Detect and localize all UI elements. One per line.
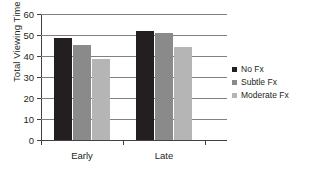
x-axis-line xyxy=(41,140,227,141)
bar-chart: Total Viewing Time (sec) 0102030405060 N… xyxy=(0,0,309,175)
x-axis-label-late: Late xyxy=(155,150,174,161)
y-axis-tick xyxy=(37,35,41,36)
legend-swatch-icon xyxy=(232,67,237,72)
bar-early-subtle-fx xyxy=(73,45,91,140)
gridline xyxy=(41,14,227,15)
y-axis-tick-label: 40 xyxy=(23,51,34,62)
y-axis-tick xyxy=(37,14,41,15)
x-axis-tick xyxy=(205,140,206,145)
bar-early-moderate-fx xyxy=(92,59,110,140)
bar-late-moderate-fx xyxy=(174,47,192,140)
y-axis-tick-label: 10 xyxy=(23,114,34,125)
legend: No FxSubtle FxModerate Fx xyxy=(232,63,289,102)
y-axis-tick xyxy=(37,77,41,78)
y-axis-tick-label: 50 xyxy=(23,30,34,41)
y-axis-tick-label: 60 xyxy=(23,9,34,20)
y-axis-tick xyxy=(37,56,41,57)
x-axis-tick xyxy=(123,140,124,145)
y-axis-tick xyxy=(37,98,41,99)
y-axis-tick xyxy=(37,119,41,120)
legend-item-no-fx: No Fx xyxy=(232,63,289,76)
legend-swatch-icon xyxy=(232,80,237,85)
legend-label: Moderate Fx xyxy=(241,89,289,102)
y-axis-tick-label: 0 xyxy=(29,135,34,146)
x-axis-label-early: Early xyxy=(71,150,93,161)
bar-late-subtle-fx xyxy=(155,33,173,140)
gridline xyxy=(41,35,227,36)
bar-late-no-fx xyxy=(136,31,154,140)
legend-label: Subtle Fx xyxy=(241,76,277,89)
legend-label: No Fx xyxy=(241,63,264,76)
legend-item-subtle-fx: Subtle Fx xyxy=(232,76,289,89)
y-axis-title: Total Viewing Time (sec) xyxy=(11,0,22,94)
plot-area: 0102030405060 xyxy=(41,14,205,140)
bar-early-no-fx xyxy=(54,38,72,140)
legend-swatch-icon xyxy=(232,93,237,98)
x-axis-tick xyxy=(41,140,42,145)
y-axis-tick-label: 30 xyxy=(23,72,34,83)
legend-item-moderate-fx: Moderate Fx xyxy=(232,89,289,102)
y-axis-tick-label: 20 xyxy=(23,93,34,104)
